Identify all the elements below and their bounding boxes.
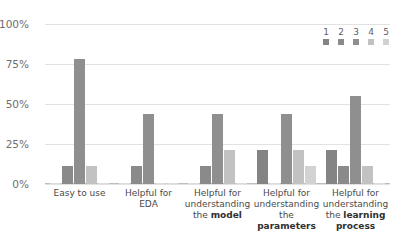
legend-item-label: 4 xyxy=(368,28,374,37)
bar xyxy=(269,183,280,184)
bar-group xyxy=(114,24,183,184)
bar-chart: 0%25%50%75%100% 12345 Easy to useHelpful… xyxy=(0,0,401,242)
x-axis-label: Helpful for understanding the learning p… xyxy=(321,188,390,232)
legend-item[interactable]: 2 xyxy=(338,28,344,45)
y-axis-tick-label: 50% xyxy=(0,98,29,110)
bar-group xyxy=(45,24,114,184)
y-axis-tick-label: 100% xyxy=(0,18,29,30)
plot-area: 0%25%50%75%100% xyxy=(45,24,390,184)
bar-group xyxy=(321,24,390,184)
bar xyxy=(167,183,178,184)
bar-group xyxy=(252,24,321,184)
x-axis-label: Helpful for EDA xyxy=(114,188,183,232)
legend-item[interactable]: 5 xyxy=(383,28,389,45)
bar xyxy=(143,114,154,184)
legend-item-label: 5 xyxy=(383,28,389,37)
bar xyxy=(86,166,97,184)
bar xyxy=(98,183,109,184)
bar xyxy=(62,166,73,184)
bar-groups xyxy=(45,24,390,184)
legend-item-label: 3 xyxy=(353,28,359,37)
legend-item[interactable]: 4 xyxy=(368,28,374,45)
x-axis-label: Helpful for understanding the parameters xyxy=(252,188,321,232)
bar xyxy=(305,166,316,184)
bar xyxy=(74,59,85,184)
legend-swatch xyxy=(353,39,359,45)
bar xyxy=(374,183,385,184)
legend-swatch xyxy=(383,39,389,45)
bar xyxy=(224,150,235,184)
gridline xyxy=(45,184,390,185)
y-axis-tick-label: 75% xyxy=(0,58,29,70)
bar xyxy=(362,166,373,184)
legend-item[interactable]: 1 xyxy=(323,28,329,45)
x-axis-labels: Easy to useHelpful for EDAHelpful for un… xyxy=(45,188,390,232)
chart-legend: 12345 xyxy=(323,28,389,45)
bar xyxy=(212,114,223,184)
bar xyxy=(155,183,166,184)
bar-group xyxy=(183,24,252,184)
bar xyxy=(119,183,130,184)
legend-item-label: 1 xyxy=(323,28,329,37)
bar xyxy=(326,150,337,184)
bar xyxy=(257,150,268,184)
legend-item-label: 2 xyxy=(338,28,344,37)
legend-item[interactable]: 3 xyxy=(353,28,359,45)
bar xyxy=(293,150,304,184)
x-axis-label: Helpful for understanding the model xyxy=(183,188,252,232)
bar xyxy=(50,183,61,184)
bar xyxy=(188,183,199,184)
bar xyxy=(200,166,211,184)
bar xyxy=(350,96,361,184)
bar xyxy=(338,166,349,184)
bar xyxy=(131,166,142,184)
legend-swatch xyxy=(338,39,344,45)
legend-swatch xyxy=(323,39,329,45)
x-axis-label: Easy to use xyxy=(45,188,114,232)
legend-swatch xyxy=(368,39,374,45)
y-axis-tick-label: 25% xyxy=(0,138,29,150)
bar xyxy=(281,114,292,184)
bar xyxy=(236,183,247,184)
y-axis-tick-label: 0% xyxy=(0,178,29,190)
